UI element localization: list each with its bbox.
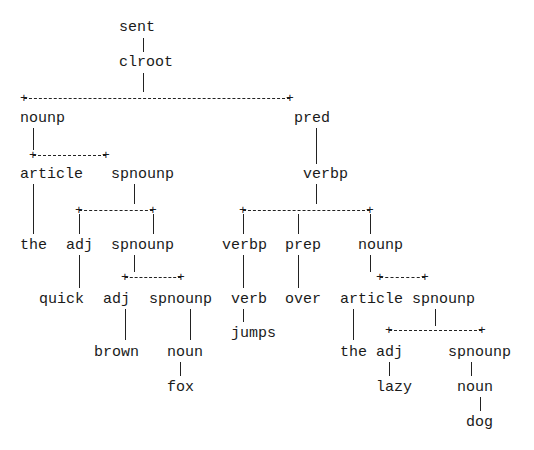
edge-connector xyxy=(243,255,244,288)
edge-connector xyxy=(370,255,371,272)
edge-connector xyxy=(370,214,371,234)
tree-node-noun2: noun xyxy=(457,380,493,395)
branch-connector xyxy=(33,155,106,156)
junction-plus: + xyxy=(286,92,294,105)
edge-connector xyxy=(33,128,34,150)
edge-connector xyxy=(79,255,80,288)
tree-node-over: over xyxy=(285,292,321,307)
tree-node-dog: dog xyxy=(466,415,493,430)
tree-node-the1: the xyxy=(20,238,47,253)
tree-node-prep: prep xyxy=(285,238,321,253)
tree-node-adj2: adj xyxy=(103,292,130,307)
edge-connector xyxy=(180,362,181,376)
tree-node-verbp1: verbp xyxy=(303,167,348,182)
edge-connector xyxy=(243,309,244,322)
branch-connector xyxy=(125,277,181,278)
edge-connector xyxy=(143,38,144,52)
edge-connector xyxy=(298,214,299,234)
branch-connector xyxy=(243,210,370,211)
edge-connector xyxy=(353,309,354,340)
tree-node-adj3: adj xyxy=(376,345,403,360)
edge-connector xyxy=(33,184,34,234)
edge-connector xyxy=(143,73,144,92)
tree-node-nounp1: nounp xyxy=(20,111,65,126)
tree-node-article1: article xyxy=(20,167,83,182)
tree-node-spnounp3: spnounp xyxy=(149,292,212,307)
branch-connector xyxy=(24,98,290,99)
tree-node-nounp2: nounp xyxy=(358,238,403,253)
edge-connector xyxy=(153,214,154,234)
junction-plus: + xyxy=(421,271,429,284)
edge-connector xyxy=(134,184,135,204)
junction-plus: + xyxy=(121,271,129,284)
edge-connector xyxy=(243,214,244,234)
junction-plus: + xyxy=(385,324,393,337)
junction-plus: + xyxy=(102,149,110,162)
edge-connector xyxy=(190,309,191,340)
branch-connector xyxy=(79,210,153,211)
tree-node-adj1: adj xyxy=(66,238,93,253)
tree-node-quick: quick xyxy=(39,292,84,307)
branch-connector xyxy=(380,277,425,278)
tree-node-jumps: jumps xyxy=(231,326,276,341)
tree-node-brown: brown xyxy=(94,345,139,360)
junction-plus: + xyxy=(20,92,28,105)
tree-node-spnounp5: spnounp xyxy=(448,345,511,360)
edge-connector xyxy=(316,184,317,204)
tree-node-spnounp4: spnounp xyxy=(412,292,475,307)
edge-connector xyxy=(316,128,317,164)
edge-connector xyxy=(480,397,481,411)
edge-connector xyxy=(79,214,80,234)
tree-node-verbp2: verbp xyxy=(222,238,267,253)
tree-node-spnounp2: spnounp xyxy=(111,238,174,253)
tree-node-noun1: noun xyxy=(167,345,203,360)
tree-node-pred: pred xyxy=(294,111,330,126)
junction-plus: + xyxy=(29,149,37,162)
tree-node-fox: fox xyxy=(167,380,194,395)
edge-connector xyxy=(298,255,299,288)
tree-node-spnounp1: spnounp xyxy=(111,167,174,182)
edge-connector xyxy=(389,362,390,376)
branch-connector xyxy=(389,330,482,331)
tree-node-lazy: lazy xyxy=(376,380,412,395)
junction-plus: + xyxy=(376,271,384,284)
tree-node-verb: verb xyxy=(231,292,267,307)
tree-node-sent: sent xyxy=(119,20,155,35)
parse-tree: ++++++++++++++sentclrootnounppredarticle… xyxy=(0,0,534,450)
edge-connector xyxy=(435,309,436,326)
junction-plus: + xyxy=(177,271,185,284)
tree-node-the2: the xyxy=(340,345,367,360)
junction-plus: + xyxy=(478,324,486,337)
edge-connector xyxy=(471,362,472,376)
tree-node-article2: article xyxy=(340,292,403,307)
tree-node-clroot: clroot xyxy=(119,55,173,70)
edge-connector xyxy=(125,309,126,340)
edge-connector xyxy=(134,255,135,272)
